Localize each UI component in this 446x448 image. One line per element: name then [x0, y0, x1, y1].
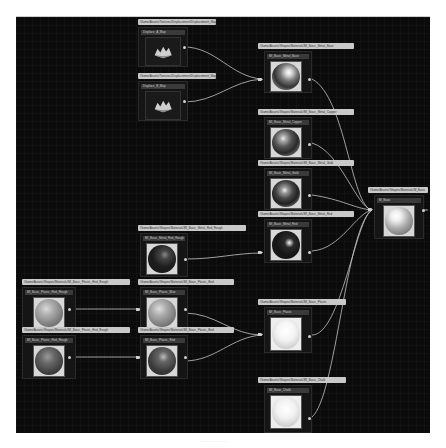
- material-node-plastic-blue[interactable]: /Game/Assets/Shapes/Materials/MI_Basic_P…: [138, 279, 248, 329]
- material-preview-sphere: [35, 347, 63, 375]
- output-pin[interactable]: [308, 251, 311, 254]
- material-node-metal-red[interactable]: /Game/Assets/Shapes/Materials/MI_Basic_M…: [258, 211, 358, 263]
- node-title: MI_Basic_Metal_Red_Rough: [143, 236, 185, 241]
- node-title: MI_Basic_Plastic_Red: [143, 338, 185, 343]
- material-node-plastic[interactable]: /Game/Assets/Shapes/Materials/MI_Basic_P…: [258, 299, 358, 351]
- output-pin[interactable]: [184, 258, 187, 261]
- node-path-label: /Game/Assets/Shapes/Materials/MI_Basic_M…: [258, 109, 354, 115]
- material-preview-sphere: [272, 180, 300, 207]
- node-title: MI_Basic_Metal_Copper: [267, 120, 309, 125]
- material-node-metal-base[interactable]: /Game/Assets/Shapes/Materials/MI_Basic_M…: [258, 43, 358, 93]
- material-node-plastic-red-rough-b[interactable]: /Game/Assets/Shapes/Materials/MI_Basic_P…: [22, 327, 134, 377]
- node-path-label: /Game/Assets/Shapes/Materials/MI_Basic_P…: [138, 279, 234, 285]
- material-node-plastic-red[interactable]: /Game/Assets/Shapes/Materials/MI_Basic_P…: [138, 327, 248, 377]
- node-title: MI_Basic_Metal_Gold: [267, 171, 309, 176]
- material-node-plastic-red-rough-a[interactable]: /Game/Assets/Shapes/Materials/MI_Basic_P…: [22, 279, 134, 329]
- output-pin[interactable]: [308, 417, 311, 420]
- input-pin[interactable]: [368, 208, 373, 211]
- texture-node-b[interactable]: /Game/Assets/Textures/Displacement/Displ…: [138, 73, 218, 119]
- output-pin[interactable]: [308, 78, 311, 81]
- material-preview-sphere: [272, 63, 300, 90]
- node-title: Displace_A_Map: [141, 30, 185, 35]
- node-path-label: /Game/Assets/Shapes/Materials/MI_Basic_P…: [138, 327, 234, 333]
- node-title: MI_Basic_Chalk: [267, 388, 309, 393]
- material-preview-sphere: [385, 207, 413, 235]
- node-path-label: /Game/Assets/Shapes/Materials/MI_Basic_M…: [138, 225, 246, 231]
- node-title: M_Basic: [377, 198, 421, 203]
- output-pin[interactable]: [183, 100, 186, 103]
- texture-node-a[interactable]: /Game/Assets/Textures/Displacement/Displ…: [138, 19, 218, 65]
- material-node-metal-gold[interactable]: /Game/Assets/Shapes/Materials/MI_Basic_M…: [258, 160, 358, 210]
- texture-landscape-icon: [153, 98, 173, 113]
- output-pin[interactable]: [308, 143, 311, 146]
- material-preview-sphere: [272, 231, 300, 259]
- texture-landscape-icon: [153, 44, 173, 59]
- node-title: MI_Basic_Plastic_Blue: [143, 290, 185, 295]
- material-preview-sphere: [148, 299, 176, 327]
- node-path-label: /Game/Assets/Shapes/Materials/MI_Basic_C…: [258, 377, 346, 383]
- material-node-output[interactable]: /Game/Assets/Shapes/Materials/M_Basic M_…: [368, 187, 430, 239]
- output-pin[interactable]: [68, 356, 71, 359]
- node-path-label: /Game/Assets/Shapes/Materials/MI_Basic_M…: [258, 160, 354, 166]
- material-node-metal-red-rough[interactable]: /Game/Assets/Shapes/Materials/MI_Basic_M…: [138, 225, 248, 277]
- node-path-label: /Game/Assets/Shapes/Materials/MI_Basic_P…: [22, 327, 130, 333]
- output-pin[interactable]: [308, 335, 311, 338]
- material-preview-sphere: [272, 129, 300, 156]
- node-title: Displace_B_Map: [141, 84, 185, 89]
- node-path-label: /Game/Assets/Shapes/Materials/MI_Basic_P…: [22, 279, 130, 285]
- node-title: MI_Basic_Plastic_Red_Rough: [25, 290, 73, 295]
- node-path-label: /Game/Assets/Shapes/Materials/MI_Basic_M…: [258, 211, 354, 217]
- material-preview-sphere: [272, 397, 300, 426]
- output-pin[interactable]: [68, 308, 71, 311]
- material-node-chalk[interactable]: /Game/Assets/Shapes/Materials/MI_Basic_C…: [258, 377, 358, 431]
- input-pin[interactable]: [258, 333, 263, 336]
- node-path-label: /Game/Assets/Shapes/Materials/MI_Basic_M…: [258, 43, 354, 49]
- material-preview-sphere: [148, 245, 176, 273]
- output-pin[interactable]: [422, 209, 425, 212]
- input-pin[interactable]: [258, 251, 263, 254]
- input-pin[interactable]: [258, 78, 263, 81]
- node-title: MI_Basic_Metal_Red: [267, 222, 309, 227]
- output-pin[interactable]: [183, 46, 186, 49]
- material-preview-sphere: [148, 347, 176, 375]
- node-path-label: /Game/Assets/Shapes/Materials/M_Basic: [368, 187, 428, 193]
- material-preview-sphere: [35, 299, 63, 327]
- node-path-label: /Game/Assets/Textures/Displacement/Displ…: [138, 19, 216, 25]
- node-path-label: /Game/Assets/Shapes/Materials/MI_Basic_P…: [258, 299, 346, 305]
- node-title: MI_Basic_Plastic: [267, 310, 309, 315]
- output-pin[interactable]: [184, 356, 187, 359]
- status-footer: · · · · · · · · · · · · · · · ·: [200, 440, 440, 444]
- node-title: MI_Basic_Metal_Base: [267, 54, 309, 59]
- output-pin[interactable]: [184, 308, 187, 311]
- material-graph-canvas[interactable]: /Game/Assets/Textures/Displacement/Displ…: [16, 16, 430, 433]
- material-preview-sphere: [272, 319, 300, 348]
- material-node-metal-copper[interactable]: /Game/Assets/Shapes/Materials/MI_Basic_M…: [258, 109, 358, 159]
- node-path-label: /Game/Assets/Textures/Displacement/Displ…: [138, 73, 216, 79]
- output-pin[interactable]: [308, 194, 311, 197]
- node-title: MI_Basic_Plastic_Red_Rough: [25, 338, 73, 343]
